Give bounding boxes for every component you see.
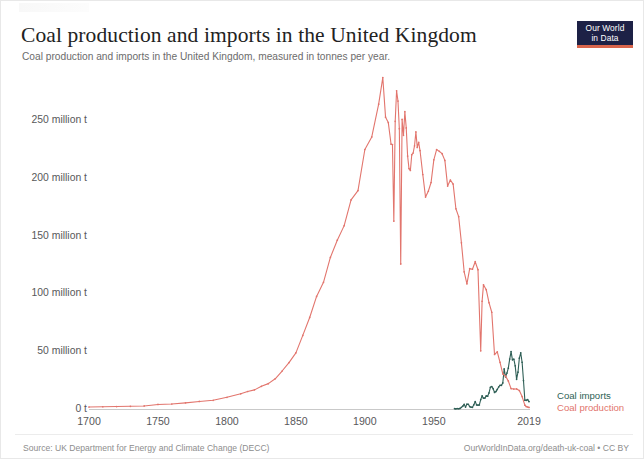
series-point xyxy=(412,152,414,154)
series-point xyxy=(382,77,384,79)
owid-logo[interactable]: Our World in Data xyxy=(577,21,633,48)
series-point xyxy=(343,225,345,227)
y-axis-tick-label: 150 million t xyxy=(3,230,87,241)
series-point xyxy=(323,281,325,283)
series-point xyxy=(516,388,518,390)
series-point xyxy=(481,300,483,302)
series-point xyxy=(474,261,476,263)
series-point xyxy=(444,160,446,162)
series-point xyxy=(513,358,515,360)
series-point xyxy=(494,354,496,356)
series-point xyxy=(477,269,479,271)
series-point xyxy=(261,385,263,387)
series-point xyxy=(450,179,452,181)
series-point xyxy=(507,380,509,382)
series-point xyxy=(452,183,454,185)
series-point xyxy=(506,372,508,374)
series-point xyxy=(130,405,132,407)
series-point xyxy=(469,268,471,270)
series-point xyxy=(507,367,509,369)
series-point xyxy=(404,111,406,113)
series-point xyxy=(503,368,505,370)
series-point xyxy=(274,378,276,380)
series-point xyxy=(416,147,418,149)
series-point xyxy=(516,379,518,381)
series-point xyxy=(509,358,511,360)
x-axis-tick-label: 1700 xyxy=(77,415,101,427)
series-point xyxy=(510,351,512,353)
series-point xyxy=(430,182,432,184)
footer-divider xyxy=(15,434,633,435)
series-point xyxy=(505,375,507,377)
series-point xyxy=(415,131,417,133)
y-axis-tick-label: 0 t xyxy=(3,403,87,414)
series-point xyxy=(461,406,463,408)
x-axis-tick-label: 2019 xyxy=(517,415,541,427)
x-axis-tick-label: 1900 xyxy=(353,415,377,427)
x-axis-tick-label: 1800 xyxy=(215,415,239,427)
series-point xyxy=(226,396,228,398)
series-point xyxy=(254,389,256,391)
series-point xyxy=(484,397,486,399)
series-point xyxy=(466,283,468,285)
series-point xyxy=(396,90,398,92)
series-point xyxy=(288,362,290,364)
series-point xyxy=(487,395,489,397)
series-point xyxy=(495,391,497,393)
series-point xyxy=(461,242,463,244)
series-point xyxy=(336,239,338,241)
series-point xyxy=(524,404,526,406)
series-point xyxy=(88,406,90,408)
series-point xyxy=(392,144,394,146)
series-point xyxy=(350,199,352,201)
series-point xyxy=(472,268,474,270)
x-axis-tick-label: 1850 xyxy=(284,415,308,427)
y-axis-tick-label: 50 million t xyxy=(3,345,87,356)
y-axis-tick-label: 250 million t xyxy=(3,114,87,125)
series-point xyxy=(433,159,435,161)
series-point xyxy=(463,404,465,406)
series-point xyxy=(394,120,396,122)
y-axis-tick-label: 100 million t xyxy=(3,287,87,298)
series-point xyxy=(488,302,490,304)
series-point xyxy=(474,401,476,403)
series-point xyxy=(330,257,332,259)
series-point xyxy=(455,208,457,210)
series-point xyxy=(488,392,490,394)
series-line xyxy=(455,352,529,409)
legend-item-coal-imports[interactable]: Coal imports xyxy=(557,390,624,402)
series-point xyxy=(491,311,493,313)
series-point xyxy=(518,390,520,392)
series-point xyxy=(462,405,464,407)
series-point xyxy=(401,119,403,121)
series-point xyxy=(418,142,420,144)
y-axis: 250 million t200 million t150 million t1… xyxy=(1,1,87,459)
series-point xyxy=(467,403,469,405)
series-point xyxy=(480,399,482,401)
series-point xyxy=(281,370,283,372)
series-point xyxy=(438,151,440,153)
series-point xyxy=(427,190,429,192)
series-point xyxy=(247,391,249,393)
series-point xyxy=(295,352,297,354)
series-point xyxy=(403,134,405,136)
series-point xyxy=(212,399,214,401)
chart-container: Coal production and imports in the Unite… xyxy=(0,0,644,459)
attribution-note[interactable]: OurWorldInData.org/death-uk-coal • CC BY xyxy=(464,443,629,453)
owid-logo-line2: in Data xyxy=(581,34,629,44)
series-point xyxy=(492,388,494,390)
series-point xyxy=(316,296,318,298)
series-point xyxy=(502,373,504,375)
series-point xyxy=(302,335,304,337)
legend-item-coal-production[interactable]: Coal production xyxy=(557,402,624,414)
series-point xyxy=(521,396,523,398)
series-point xyxy=(267,383,269,385)
series-point xyxy=(357,190,359,192)
series-point xyxy=(408,168,410,170)
series-point xyxy=(501,385,503,387)
series-point xyxy=(385,116,387,118)
series-point xyxy=(481,395,483,397)
series-point xyxy=(116,406,118,408)
series-point xyxy=(463,271,465,273)
series-point xyxy=(397,100,399,102)
